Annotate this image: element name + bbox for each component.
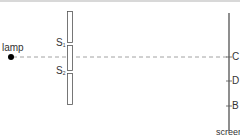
barrier-middle: [68, 46, 73, 71]
point-b-label: B: [232, 101, 239, 111]
slit2-subscript: 2: [63, 70, 66, 76]
screen-label: screen: [216, 128, 240, 137]
slit1-subscript: 1: [63, 42, 66, 48]
point-d-label: D: [232, 76, 239, 86]
lamp-label: lamp: [2, 43, 24, 53]
diagram-canvas: [0, 0, 240, 138]
barrier-bottom: [68, 74, 73, 105]
slit1-label: S1: [56, 38, 65, 48]
barrier-top: [68, 12, 73, 43]
slit1-letter: S: [56, 37, 63, 48]
point-c-label: C: [232, 52, 239, 62]
slit2-letter: S: [56, 65, 63, 76]
lamp-dot: [8, 54, 14, 60]
slit2-label: S2: [56, 66, 65, 76]
